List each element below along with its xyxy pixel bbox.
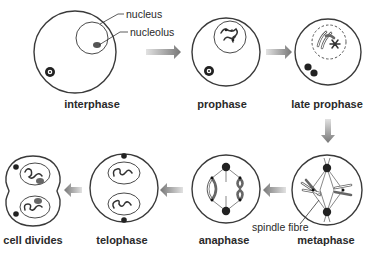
label-interphase: interphase xyxy=(64,98,120,110)
chromatin xyxy=(113,200,131,208)
callout-spindle-fibre: spindle fibre xyxy=(252,221,309,233)
arrow-right-icon xyxy=(146,45,181,59)
arrow-right-icon xyxy=(266,45,292,59)
chromatin xyxy=(24,204,42,210)
mitosis-diagram: nucleus nucleolus interphase prophase xyxy=(0,0,367,253)
arrow-left-icon xyxy=(160,183,183,197)
label-telophase: telophase xyxy=(96,234,147,246)
chromatin xyxy=(25,169,42,178)
centrosome-icon xyxy=(310,69,317,76)
stage-anaphase: anaphase xyxy=(192,155,260,246)
nucleolus xyxy=(36,178,44,184)
nucleus xyxy=(76,22,108,54)
cell-membrane xyxy=(34,11,116,93)
pole-centrosome-icon xyxy=(323,208,331,216)
label-late-prophase: late prophase xyxy=(291,98,363,110)
centrosome-icon xyxy=(13,211,19,217)
arrow-left-icon xyxy=(263,183,286,197)
separating-chromatids xyxy=(208,177,243,202)
nucleolus xyxy=(93,42,101,48)
cell-membrane xyxy=(295,19,361,85)
stage-late-prophase: late prophase xyxy=(291,19,363,110)
centrosome-icon xyxy=(204,66,214,76)
arrow-left-icon xyxy=(64,183,82,197)
daughter-nucleus xyxy=(20,163,50,185)
chromatin xyxy=(221,29,237,42)
centrosome-icon xyxy=(13,164,19,170)
centrosome-icon xyxy=(304,63,311,70)
label-prophase: prophase xyxy=(197,98,247,110)
arrow-down-icon xyxy=(321,119,335,143)
pole-centrosome-icon xyxy=(222,163,230,171)
label-metaphase: metaphase xyxy=(297,234,354,246)
chromatin xyxy=(113,169,132,176)
cell-membrane xyxy=(90,154,158,222)
nucleus xyxy=(214,21,246,53)
pole-centrosome-icon xyxy=(323,164,331,172)
pole-centrosome-icon xyxy=(222,207,230,215)
centrosome-icon xyxy=(121,153,127,159)
stage-telophase: telophase xyxy=(90,153,158,246)
centrosome-icon xyxy=(121,217,127,223)
label-anaphase: anaphase xyxy=(199,234,250,246)
nucleolus xyxy=(34,198,42,204)
condensed-chromosomes xyxy=(318,32,340,48)
stage-metaphase: spindle fibre metaphase xyxy=(252,155,362,246)
label-cell-divides: cell divides xyxy=(3,234,62,246)
chromosomes xyxy=(302,180,351,195)
callout-nucleus: nucleus xyxy=(126,8,162,20)
stage-cell-divides: cell divides xyxy=(3,156,62,246)
stage-interphase: nucleus nucleolus interphase xyxy=(34,8,174,110)
callout-nucleolus: nucleolus xyxy=(130,26,174,38)
breaking-nuclear-envelope xyxy=(312,25,346,59)
stage-prophase: prophase xyxy=(192,18,260,110)
centrosome-icon xyxy=(45,67,55,77)
